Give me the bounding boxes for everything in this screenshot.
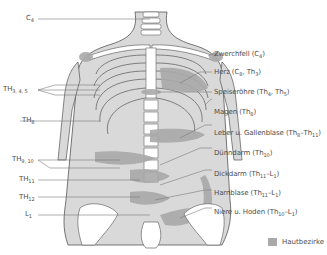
segment-sub: 11 (262, 192, 268, 198)
legend: Hautbezirke (268, 238, 324, 246)
segment-sub: 1 (275, 192, 278, 198)
segment-sub: 10 (278, 211, 284, 217)
segment-base: Th (270, 208, 279, 216)
label-sub: 11 (28, 178, 34, 184)
legend-label: Hautbezirke (282, 238, 324, 246)
segment-base: Th (289, 129, 298, 137)
segment-base: Th (247, 68, 256, 76)
label-base: TH (19, 193, 28, 201)
segment-sub: 8 (250, 111, 253, 117)
anatomy-figure: C4 TH3, 4, 5 TH8 TH9, 10 TH11 TH12 L1 Zw… (0, 0, 327, 255)
organ-name: Magen (214, 108, 237, 116)
segment-sub: 8 (239, 71, 242, 77)
organ-name: Harnblase (214, 189, 248, 197)
label-duenndarm: Dünndarm (Th10) (214, 149, 272, 157)
segment-sub: 5 (284, 91, 287, 97)
label-base: TH (12, 155, 21, 163)
label-niere: Niere u. Hoden (Th10–L1) (214, 208, 297, 216)
segment-sub: 3 (255, 71, 258, 77)
organ-name: Dünndarm (214, 149, 250, 157)
segment-sub: 11 (312, 132, 318, 138)
organ-name: Speiseröhre (214, 88, 254, 96)
label-dickdarm: Dickdarm (Th11–L1) (214, 170, 279, 178)
label-harnblase: Harnblase (Th11–L1) (214, 189, 281, 197)
organ-name: Leber u. Gallenblase (214, 129, 284, 137)
segment-base: Th (275, 88, 284, 96)
label-base: TH (22, 116, 31, 124)
segment-base: Th (304, 129, 313, 137)
label-th12: TH12 (19, 193, 35, 201)
segment-base: Th (252, 170, 261, 178)
segment-sub: 4 (259, 53, 262, 59)
segment-sub: 11 (260, 173, 266, 179)
label-zwerchfell: Zwerchfell (C4) (214, 50, 265, 58)
label-speiseroehre: Speiseröhre (Th4, Th5) (214, 88, 289, 96)
organ-name: Dickdarm (214, 170, 247, 178)
label-sub: 9, 10 (21, 158, 33, 164)
label-sub: 12 (28, 196, 34, 202)
label-base: TH (19, 175, 28, 183)
organ-name: Herz (214, 68, 230, 76)
label-sub: 4 (31, 17, 34, 23)
label-c4: C4 (26, 14, 34, 22)
label-magen: Magen (Th8) (214, 108, 256, 116)
label-th345: TH3, 4, 5 (3, 85, 28, 93)
segment-sub: 1 (273, 173, 276, 179)
segment-sub: 1 (292, 211, 295, 217)
segment-base: Th (253, 189, 262, 197)
legend-swatch (268, 238, 277, 246)
label-leber: Leber u. Gallenblase (Th8–Th11) (214, 129, 321, 137)
segment-base: Th (255, 149, 264, 157)
label-base: TH (3, 85, 12, 93)
label-l1: L1 (25, 210, 32, 218)
segment-sub: 8 (297, 132, 300, 138)
organ-name: Zwerchfell (214, 50, 250, 58)
segment-sub: 10 (264, 152, 270, 158)
label-sub: 1 (29, 213, 32, 219)
label-sub: 8 (31, 119, 34, 125)
organ-name: Niere u. Hoden (214, 208, 265, 216)
segment-base: Th (259, 88, 268, 96)
label-th8: TH8 (22, 116, 34, 124)
segment-sub: 4 (268, 91, 271, 97)
label-th910: TH9, 10 (12, 155, 34, 163)
label-herz: Herz (C8, Th3) (214, 68, 261, 76)
label-th11: TH11 (19, 175, 35, 183)
label-sub: 3, 4, 5 (12, 88, 27, 94)
